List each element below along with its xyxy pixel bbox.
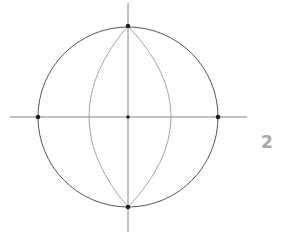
inner-lens-left-arc (89, 26, 128, 207)
point-center (126, 115, 130, 119)
inner-lens-right-arc (128, 26, 171, 207)
figure-number-label: 2 (261, 132, 273, 152)
point-right (216, 115, 221, 120)
point-top (126, 24, 131, 29)
point-bottom (126, 205, 131, 210)
geometry-diagram (0, 0, 281, 237)
point-left (36, 115, 41, 120)
